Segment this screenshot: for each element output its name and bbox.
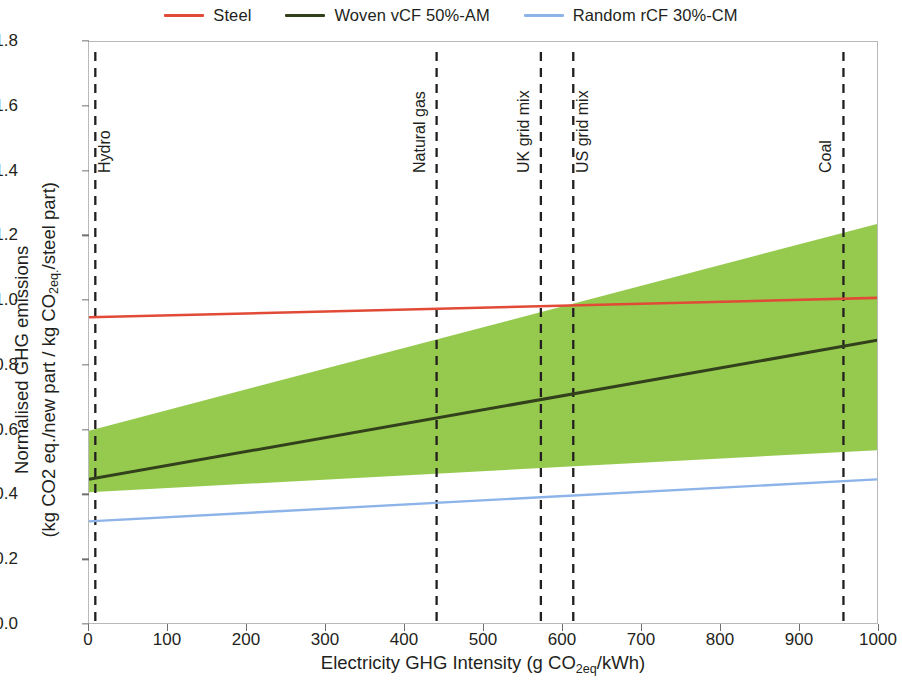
x-tick-mark-9 [799,624,800,631]
x-tick-mark-6 [562,624,563,631]
y-tick-label-0: 0.0 [0,614,18,634]
x-tick-label-3: 300 [285,630,365,650]
y-tick-mark-3 [82,429,89,430]
x-tick-label-7: 700 [601,630,681,650]
x-tick-mark-8 [720,624,721,631]
y-tick-mark-5 [82,299,89,300]
vertical-marker-label-4: Coal [817,140,835,173]
vertical-marker-label-1: Natural gas [411,91,429,173]
y-tick-label-9: 1.8 [0,31,18,51]
plot-area [88,41,878,624]
x-tick-mark-3 [325,624,326,631]
y-tick-text-0: 0.0 [0,614,18,634]
y-tick-mark-4 [82,364,89,365]
x-tick-mark-5 [483,624,484,631]
x-tick-label-6: 600 [522,630,602,650]
x-tick-mark-0 [88,624,89,631]
vertical-marker-label-3: US grid mix [574,90,592,173]
y-axis-title-line2: (kg CO2 eq./new part / kg CO2eq./steel p… [36,125,63,595]
plot-svg [89,42,878,624]
x-tick-label-8: 800 [680,630,760,650]
uncertainty-band-layer [89,223,878,492]
y-tick-mark-6 [82,235,89,236]
x-tick-label-2: 200 [206,630,286,650]
x-tick-mark-7 [641,624,642,631]
y-tick-mark-2 [82,494,89,495]
vertical-marker-label-2: UK grid mix [515,90,533,173]
y-tick-text-9: 1.8 [0,31,18,51]
y-tick-label-8: 1.6 [0,96,18,116]
y-tick-mark-8 [82,105,89,106]
x-tick-label-0: 0 [48,630,128,650]
x-tick-mark-1 [167,624,168,631]
x-tick-label-10: 1000 [838,630,902,650]
uncertainty-band-0 [89,223,878,492]
x-axis-title: Electricity GHG Intensity (g CO2eq/kWh) [88,652,878,674]
y-tick-mark-7 [82,170,89,171]
y-tick-mark-9 [82,40,89,41]
chart-container: 0.00.20.40.60.81.01.21.41.61.8 010020030… [0,0,902,684]
y-tick-text-8: 1.6 [0,96,18,116]
y-tick-mark-1 [82,559,89,560]
y-axis-title-line1: Normalised GHG emissions [11,246,32,474]
x-tick-label-9: 900 [759,630,839,650]
x-tick-label-1: 100 [127,630,207,650]
x-tick-mark-4 [404,624,405,631]
y-axis-title: Normalised GHG emissions (kg CO2 eq./new… [9,125,63,595]
x-tick-mark-10 [878,624,879,631]
vertical-marker-label-0: Hydro [96,130,114,173]
x-tick-mark-2 [246,624,247,631]
x-tick-label-5: 500 [443,630,523,650]
x-tick-label-4: 400 [364,630,444,650]
